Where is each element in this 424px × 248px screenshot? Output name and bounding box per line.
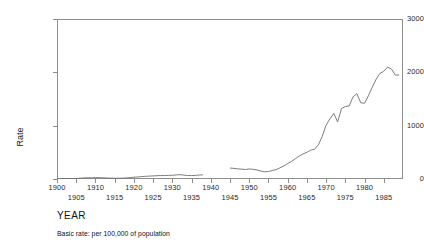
x-tick-label: 1925 [138, 194, 168, 202]
x-tick-mark [345, 179, 346, 183]
x-tick-label: 1910 [80, 184, 110, 192]
x-tick-label: 1930 [157, 184, 187, 192]
x-tick-label: 1915 [100, 194, 130, 202]
data-line-prewar [57, 175, 203, 179]
x-tick-label: 1905 [61, 194, 91, 202]
chart-caption: Basic rate: per 100,000 of population [57, 230, 170, 237]
x-tick-label: 1955 [253, 194, 283, 202]
data-series-layer [57, 19, 403, 179]
x-tick-label: 1940 [196, 184, 226, 192]
x-tick-mark [192, 179, 193, 183]
line-chart-figure: 3000 2000 1000 0 Rate 190019101920193019… [0, 0, 424, 248]
x-tick-mark [230, 179, 231, 183]
x-tick-mark [384, 179, 385, 183]
x-tick-label: 1945 [215, 194, 245, 202]
x-tick-label: 1960 [273, 184, 303, 192]
x-tick-mark [76, 179, 77, 183]
x-tick-mark [307, 179, 308, 183]
x-tick-mark [268, 179, 269, 183]
x-tick-label: 1985 [369, 194, 399, 202]
x-tick-mark [115, 179, 116, 183]
data-line-postwar [230, 67, 399, 172]
x-tick-label: 1970 [311, 184, 341, 192]
x-tick-label: 1950 [234, 184, 264, 192]
x-tick-label: 1920 [119, 184, 149, 192]
x-tick-label: 1980 [350, 184, 380, 192]
x-tick-label: 1975 [330, 194, 360, 202]
x-tick-label: 1900 [42, 184, 72, 192]
x-tick-mark [153, 179, 154, 183]
x-axis-title: YEAR [57, 210, 86, 221]
x-tick-label: 1965 [292, 194, 322, 202]
x-tick-label: 1935 [177, 194, 207, 202]
y-axis-title: Rate [15, 113, 25, 161]
